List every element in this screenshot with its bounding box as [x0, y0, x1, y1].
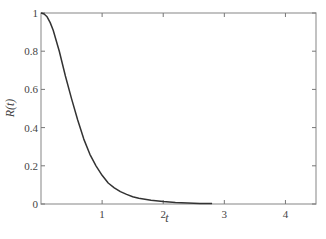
x-axis-label: t — [165, 211, 169, 225]
x-tick-label: 1 — [99, 208, 105, 220]
x-tick-label: 4 — [283, 208, 289, 220]
y-tick-label: 0.2 — [24, 160, 38, 172]
axes-box — [41, 13, 316, 204]
x-tick-label: 3 — [222, 208, 228, 220]
y-axis-label: R(t) — [3, 99, 17, 119]
x-axis-ticks: 1234 — [99, 13, 288, 220]
y-tick-label: 0.8 — [24, 45, 38, 57]
data-series — [41, 13, 212, 204]
y-tick-label: 0 — [33, 198, 39, 210]
y-axis-ticks: 00.20.40.60.81 — [24, 7, 316, 210]
y-tick-label: 1 — [33, 7, 39, 19]
y-tick-label: 0.6 — [24, 83, 38, 95]
reliability-chart: 1234 00.20.40.60.81 t R(t) — [0, 0, 326, 239]
y-tick-label: 0.4 — [24, 122, 38, 134]
series-line — [41, 13, 212, 204]
plot-frame — [41, 13, 316, 204]
